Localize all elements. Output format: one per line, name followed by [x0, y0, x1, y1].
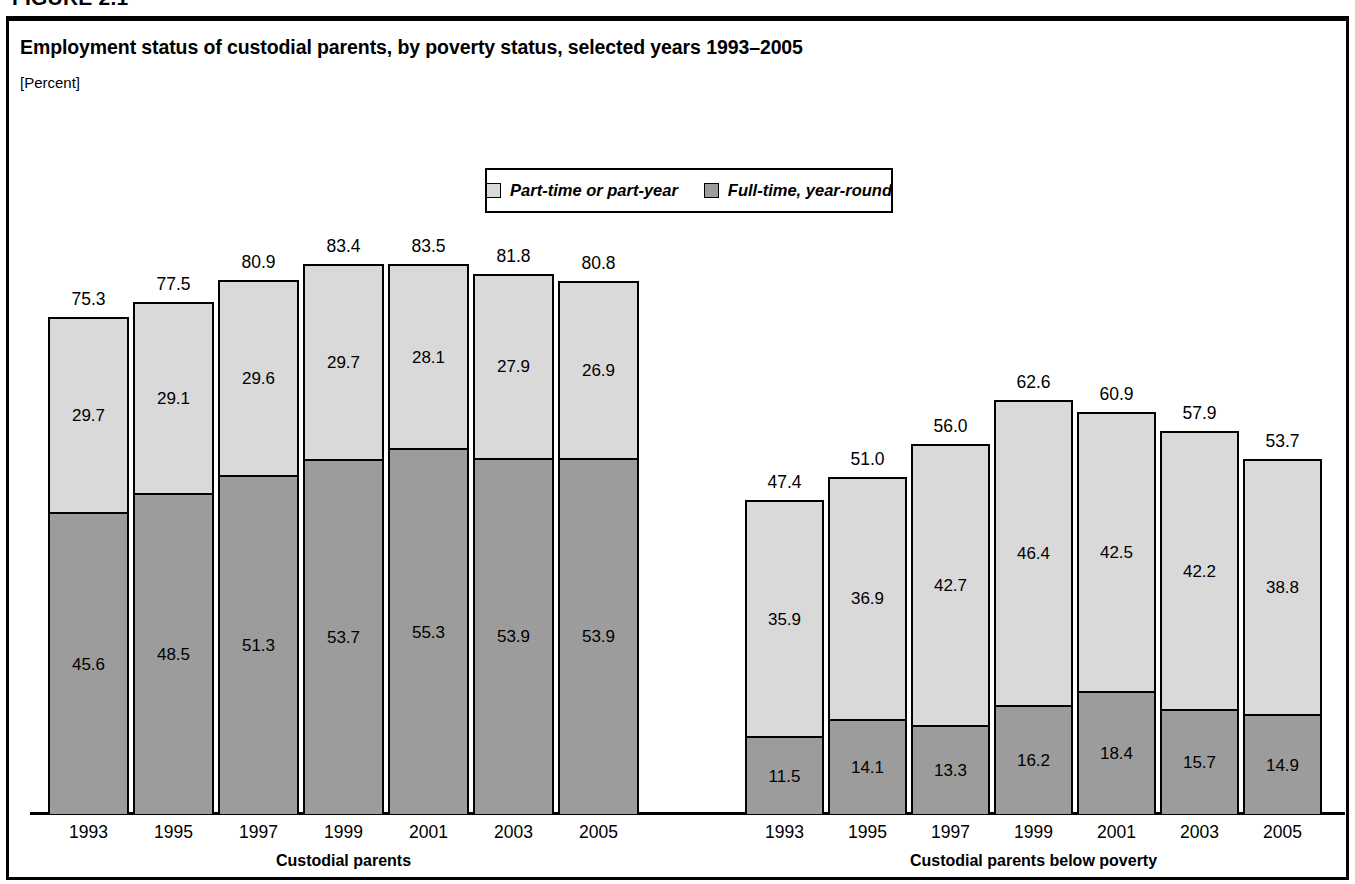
chart-title: Employment status of custodial parents, …	[20, 36, 803, 59]
chart-subtitle: [Percent]	[20, 74, 80, 91]
figure-frame	[6, 16, 1349, 880]
legend-label-part-time: Part-time or part-year	[510, 181, 678, 200]
legend-swatch-part-time-icon	[486, 183, 501, 198]
chart-legend: Part-time or part-year Full-time, year-r…	[485, 168, 893, 213]
legend-swatch-full-time-icon	[704, 183, 719, 198]
figure-number: FIGURE 2.1	[12, 0, 128, 10]
legend-label-full-time: Full-time, year-round	[728, 181, 892, 200]
legend-entry-full-time: Full-time, year-round	[704, 181, 892, 200]
legend-entry-part-time: Part-time or part-year	[486, 181, 678, 200]
figure-page: FIGURE 2.1 Employment status of custodia…	[0, 0, 1355, 884]
